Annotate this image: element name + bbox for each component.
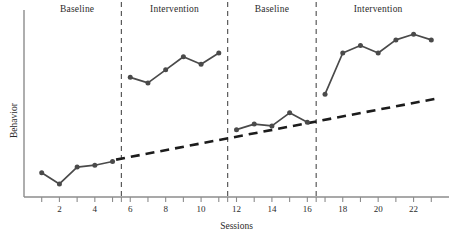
- data-point-marker: [287, 110, 292, 115]
- data-point-marker: [323, 92, 328, 97]
- data-point-marker: [92, 163, 97, 168]
- data-point-marker: [128, 75, 133, 80]
- data-point-marker: [39, 170, 44, 175]
- x-tick-label-20: 20: [374, 204, 383, 214]
- data-point-marker: [340, 51, 345, 56]
- data-point-marker: [181, 54, 186, 59]
- data-point-marker: [163, 67, 168, 72]
- data-point-marker: [234, 127, 239, 132]
- chart-plot-area: [0, 0, 452, 240]
- data-point-marker: [75, 165, 80, 170]
- trend-line: [116, 98, 440, 160]
- data-point-marker: [216, 51, 221, 56]
- x-tick-label-22: 22: [409, 204, 418, 214]
- x-tick-label-18: 18: [338, 204, 347, 214]
- data-point-marker: [57, 181, 62, 186]
- single-subject-abab-chart: Behavior Sessions BaselineInterventionBa…: [0, 0, 452, 240]
- x-tick-label-6: 6: [128, 204, 133, 214]
- phase-label-0: Baseline: [60, 4, 94, 14]
- x-tick-label-8: 8: [163, 204, 168, 214]
- data-point-marker: [252, 122, 257, 127]
- trend-line-path: [116, 98, 440, 160]
- phase-label-1: Intervention: [150, 4, 199, 14]
- x-tick-label-12: 12: [232, 204, 241, 214]
- series-path: [130, 53, 219, 83]
- x-tick-label-14: 14: [267, 204, 276, 214]
- data-point-marker: [305, 120, 310, 125]
- x-axis-title: Sessions: [220, 221, 253, 231]
- data-point-marker: [376, 51, 381, 56]
- x-tick-label-4: 4: [93, 204, 98, 214]
- data-point-marker: [429, 37, 434, 42]
- x-tick-label-10: 10: [197, 204, 206, 214]
- y-axis-title: Behavior: [9, 103, 19, 138]
- series-path: [325, 34, 431, 94]
- data-point-marker: [358, 43, 363, 48]
- data-point-marker: [411, 32, 416, 37]
- x-tick-label-2: 2: [57, 204, 62, 214]
- phase-label-2: Baseline: [255, 4, 289, 14]
- x-tick-label-16: 16: [303, 204, 312, 214]
- phase-divider-lines: [121, 2, 316, 197]
- data-point-marker: [393, 37, 398, 42]
- data-point-marker: [269, 123, 274, 128]
- data-point-marker: [145, 80, 150, 85]
- data-point-marker: [199, 62, 204, 67]
- axes: [24, 10, 449, 202]
- phase-label-3: Intervention: [354, 4, 403, 14]
- data-point-marker: [110, 159, 115, 164]
